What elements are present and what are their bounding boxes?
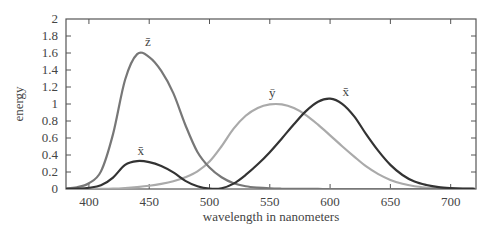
y-tick-label: 1.2 (42, 79, 58, 94)
x-tick-label: 450 (139, 194, 159, 209)
x-axis-title: wavelength in nanometers (203, 209, 339, 224)
curve-label: x̄ (138, 143, 145, 158)
x-tick-label: 400 (79, 194, 99, 209)
y-tick-label: 1 (52, 96, 59, 111)
y-tick-label: 0 (52, 181, 59, 196)
y-tick-label: 0.6 (42, 130, 59, 145)
curve-labels: z̄x̄ȳx̄ (138, 34, 350, 158)
x-tick-label: 550 (260, 194, 280, 209)
x-tick-label: 600 (320, 194, 340, 209)
cie-color-matching-chart: 00.20.40.60.811.21.41.61.82 400450500550… (0, 0, 495, 237)
y-tick-label: 1.6 (42, 45, 59, 60)
y-tick-label: 0.4 (42, 147, 59, 162)
curve-label: z̄ (145, 34, 151, 49)
curve-z-bar (65, 53, 475, 189)
curve-label: x̄ (343, 84, 350, 99)
x-tick-label: 650 (381, 194, 401, 209)
curve-x-bar (65, 99, 475, 189)
y-axis-title: energy (11, 86, 26, 122)
y-tick-label: 0.8 (42, 113, 58, 128)
curve-y-bar (65, 104, 475, 189)
curve-label: ȳ (269, 85, 276, 100)
y-axis-ticks: 00.20.40.60.811.21.41.61.82 (42, 11, 476, 196)
x-axis-ticks: 400450500550600650700 (79, 19, 460, 209)
x-tick-label: 700 (441, 194, 461, 209)
curves (65, 53, 475, 189)
y-tick-label: 2 (52, 11, 59, 26)
y-tick-label: 1.4 (42, 62, 59, 77)
y-tick-label: 0.2 (42, 164, 58, 179)
x-tick-label: 500 (200, 194, 220, 209)
y-tick-label: 1.8 (42, 28, 58, 43)
